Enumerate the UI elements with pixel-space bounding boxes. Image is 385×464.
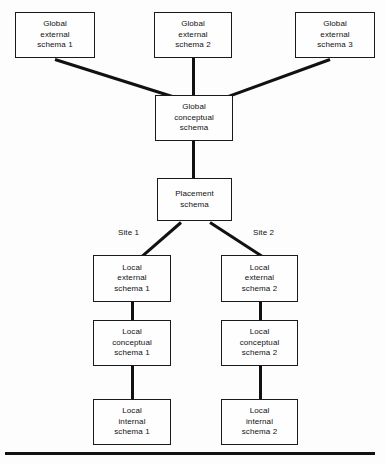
node-text-line-1: Local (250, 327, 270, 338)
node-local-internal-schema-1[interactable]: Local internal schema 1 (93, 399, 171, 445)
node-text-line-1: Local (122, 406, 142, 417)
node-local-external-schema-1[interactable]: Local external schema 1 (93, 255, 171, 302)
node-local-external-schema-2[interactable]: Local external schema 2 (221, 255, 298, 302)
node-global-external-schema-2[interactable]: Global external schema 2 (154, 12, 232, 58)
label-site-2: Site 2 (253, 228, 274, 238)
node-text-line-1: Global (43, 19, 67, 30)
node-text-line-1: Local (250, 406, 270, 417)
node-text-line-2: conceptual (240, 338, 280, 349)
node-text-line-3: schema 1 (37, 40, 72, 51)
node-text-line-1: Global (182, 102, 206, 113)
node-text-line-1: Global (181, 19, 205, 30)
node-text-line-3: schema 1 (114, 427, 149, 438)
connector-conceptual-to-placement (192, 140, 195, 180)
connector-local-conceptual-2-to-internal-2 (259, 366, 262, 401)
node-local-conceptual-schema-1[interactable]: Local conceptual schema 1 (93, 320, 171, 366)
node-text-line-2: conceptual (174, 113, 214, 124)
node-text-line-1: Global (323, 19, 347, 30)
node-global-conceptual-schema[interactable]: Global conceptual schema (155, 95, 233, 141)
node-text-line-3: schema 2 (242, 427, 277, 438)
node-local-internal-schema-2[interactable]: Local internal schema 2 (221, 399, 298, 445)
node-text-line-3: schema 3 (317, 40, 352, 51)
node-text-line-2: external (40, 30, 69, 41)
node-text-line-2: conceptual (112, 338, 152, 349)
connector-global-external-2-to-conceptual (192, 58, 195, 97)
node-text-line-2: external (178, 30, 207, 41)
connector-local-external-2-to-conceptual-2 (259, 302, 262, 322)
label-site-1: Site 1 (118, 228, 139, 238)
bottom-divider-rule (5, 452, 375, 455)
connector-local-external-1-to-conceptual-1 (131, 302, 134, 322)
node-global-external-schema-3[interactable]: Global external schema 3 (295, 12, 375, 58)
node-text-line-1: Local (122, 263, 142, 274)
node-text-line-2: schema (180, 200, 209, 211)
node-text-line-2: external (320, 30, 349, 41)
node-text-line-3: schema 2 (175, 40, 210, 51)
node-text-line-2: external (117, 273, 146, 284)
node-text-line-3: schema 1 (114, 348, 149, 359)
node-text-line-1: Placement (175, 189, 214, 200)
connector-placement-to-local-external-1 (141, 221, 182, 257)
node-placement-schema[interactable]: Placement schema (157, 178, 232, 221)
node-global-external-schema-1[interactable]: Global external schema 1 (15, 12, 95, 58)
node-text-line-1: Local (122, 327, 142, 338)
diagram-canvas: Global external schema 1 Global external… (0, 0, 385, 464)
node-text-line-2: internal (246, 417, 273, 428)
node-text-line-3: schema 1 (114, 284, 149, 295)
node-text-line-3: schema (180, 123, 209, 134)
node-local-conceptual-schema-2[interactable]: Local conceptual schema 2 (221, 320, 298, 366)
connector-placement-to-local-external-2 (209, 221, 263, 257)
node-text-line-2: external (245, 273, 274, 284)
node-text-line-3: schema 2 (242, 348, 277, 359)
node-text-line-2: internal (118, 417, 145, 428)
connector-global-external-1-to-conceptual (55, 58, 173, 98)
node-text-line-3: schema 2 (242, 284, 277, 295)
connector-local-conceptual-1-to-internal-1 (131, 366, 134, 401)
node-text-line-1: Local (250, 263, 270, 274)
connector-global-external-3-to-conceptual (223, 58, 330, 99)
